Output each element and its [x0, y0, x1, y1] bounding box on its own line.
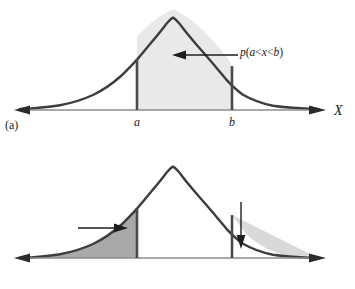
panel-a-tick-label-b: b [229, 115, 235, 130]
panel-a-tick-label-a: a [134, 115, 140, 130]
panel-a: (a) X a b p(a<x<b) [0, 0, 355, 145]
region-right-tail [232, 215, 318, 258]
region-between-a-and-b [137, 10, 232, 110]
panel-a-axis-name: X [334, 103, 343, 119]
panel-b: (b) X a b p(x<a) p(x>b) [0, 145, 355, 289]
panel-a-plot [0, 0, 355, 145]
panel-b-plot [0, 145, 355, 289]
annotation-probability-between: p(a<x<b) [240, 46, 283, 58]
panel-a-caption: (a) [5, 118, 18, 133]
probability-density-figure: (a) X a b p(a<x<b) [0, 0, 355, 289]
annot-between-close: ) [279, 46, 283, 58]
